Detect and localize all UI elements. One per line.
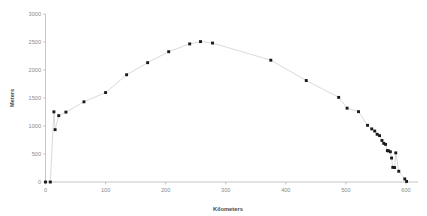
- data-point-marker: [57, 114, 60, 117]
- y-axis-tick-label: 2500: [29, 39, 41, 45]
- data-point-marker: [370, 127, 373, 130]
- x-axis-tick-label: 200: [161, 187, 170, 193]
- data-point-marker: [366, 124, 369, 127]
- data-point-marker: [167, 50, 170, 53]
- data-point-marker: [346, 107, 349, 110]
- data-point-marker: [83, 100, 86, 103]
- data-point-marker: [357, 110, 360, 113]
- x-axis-tick-label: 0: [44, 187, 47, 193]
- y-axis-tick-label: 1500: [29, 95, 41, 101]
- data-point-marker: [305, 79, 308, 82]
- x-axis-tick-label: 400: [281, 187, 290, 193]
- data-point-marker: [394, 151, 397, 154]
- x-axis-tick-label: 300: [221, 187, 230, 193]
- data-point-marker: [381, 139, 384, 142]
- data-point-marker: [373, 130, 376, 133]
- x-axis-title: Kilometers: [213, 206, 243, 212]
- data-point-marker: [54, 128, 57, 131]
- x-axis: 0100200300400500600: [44, 182, 418, 193]
- data-point-marker: [44, 181, 47, 184]
- y-axis-tick-label: 0: [38, 179, 41, 185]
- data-point-marker: [125, 73, 128, 76]
- data-point-marker: [397, 170, 400, 173]
- y-axis: 050010001500200025003000: [29, 11, 46, 185]
- data-point-marker: [390, 157, 393, 160]
- y-axis-tick-label: 2000: [29, 67, 41, 73]
- data-point-marker: [405, 180, 408, 183]
- chart-canvas: 050010001500200025003000 010020030040050…: [0, 0, 427, 216]
- y-axis-tick-label: 500: [32, 151, 41, 157]
- data-point-marker: [337, 96, 340, 99]
- data-point-marker: [104, 91, 107, 94]
- data-point-marker: [384, 143, 387, 146]
- y-axis-title: Meters: [9, 89, 15, 108]
- series-line: [46, 42, 407, 182]
- elevation-profile-chart: 050010001500200025003000 010020030040050…: [0, 0, 427, 216]
- x-axis-tick-label: 500: [341, 187, 350, 193]
- x-axis-tick-label: 100: [101, 187, 110, 193]
- data-point-marker: [389, 150, 392, 153]
- y-axis-tick-label: 1000: [29, 123, 41, 129]
- data-point-marker: [146, 61, 149, 64]
- data-point-marker: [64, 111, 67, 114]
- data-point-marker: [269, 59, 272, 62]
- data-point-marker: [199, 40, 202, 43]
- data-point-marker: [393, 166, 396, 169]
- y-axis-tick-label: 3000: [29, 11, 41, 17]
- data-point-marker: [403, 177, 406, 180]
- data-point-marker: [211, 42, 214, 45]
- data-point-marker: [49, 181, 52, 184]
- data-point-marker: [52, 110, 55, 113]
- data-series: [44, 40, 408, 183]
- x-axis-tick-label: 600: [401, 187, 410, 193]
- data-point-marker: [188, 42, 191, 45]
- data-point-marker: [378, 134, 381, 137]
